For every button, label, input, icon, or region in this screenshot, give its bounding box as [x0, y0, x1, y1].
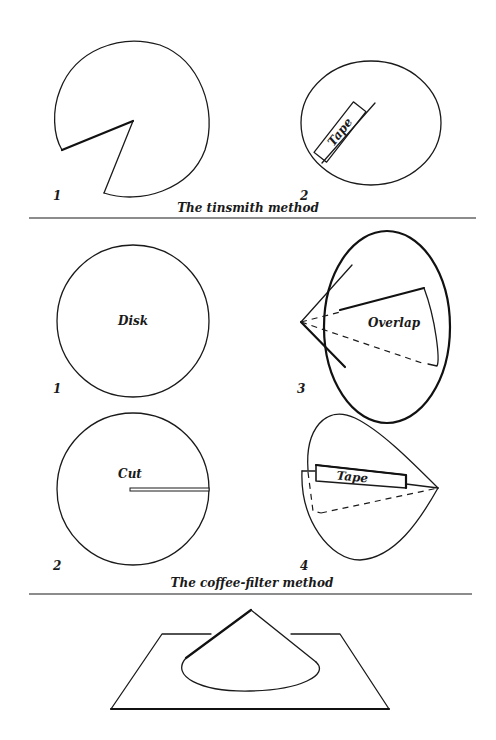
disk-outline-with-wedge-removed	[55, 41, 210, 197]
coffee-step-1-disk: Disk	[57, 245, 209, 397]
tinsmith-step-1-number: 1	[53, 189, 61, 203]
overlap-label: Overlap	[368, 316, 421, 330]
coffee-step-2-number: 2	[52, 559, 61, 573]
hidden-edge-upper	[301, 312, 340, 322]
tape-strip: Tape	[314, 102, 366, 162]
tape-label-4: Tape	[336, 469, 369, 486]
sheet-back-left	[111, 634, 211, 709]
coffee-filter-caption: The coffee-filter method	[171, 576, 335, 590]
coffee-step-4-number: 4	[300, 559, 308, 573]
disk-label: Disk	[117, 314, 148, 328]
coffee-step-2-cut: Cut	[57, 413, 209, 565]
cone-upper-edge	[301, 265, 352, 322]
cone-lower-outline	[302, 471, 438, 560]
wedge-cut-edge	[62, 121, 133, 150]
tinsmith-step-1-disk-with-wedge	[55, 41, 210, 197]
tinsmith-caption: The tinsmith method	[177, 201, 319, 215]
overlap-flap-top	[340, 288, 424, 310]
coffee-step-4-tape: Tape	[302, 414, 438, 560]
coffee-step-1-number: 1	[53, 382, 61, 396]
diagram-canvas: 1 Tape 2 The tinsmith method Disk 1 Over…	[0, 0, 496, 740]
coffee-step-3-overlap: Overlap	[301, 231, 450, 423]
cone-outline	[308, 414, 438, 488]
cone-base	[182, 658, 320, 691]
hidden-seam-vertical	[308, 472, 321, 513]
coffee-step-3-number: 3	[297, 382, 305, 396]
overlap-flap-side	[424, 288, 438, 366]
tape-strip-4: Tape	[316, 465, 406, 488]
hidden-seam-diagonal	[321, 488, 438, 513]
cut-label: Cut	[118, 467, 142, 481]
sheet-back-right	[291, 634, 389, 709]
result-cone-on-sheet	[111, 610, 389, 709]
cone-base-outline	[301, 61, 441, 185]
tinsmith-step-2-taped-cone: Tape	[301, 61, 441, 185]
cone-right-edge	[251, 610, 316, 662]
cut-slit	[130, 488, 209, 491]
flap-bottom-edge	[406, 484, 438, 488]
